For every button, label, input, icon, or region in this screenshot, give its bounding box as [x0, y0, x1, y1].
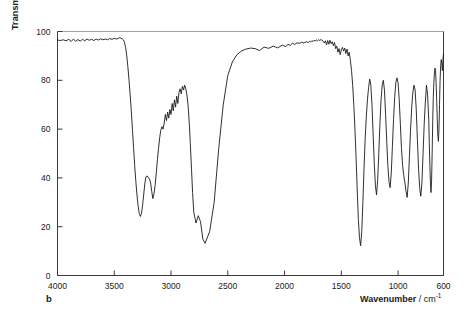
x-tick-label: 2000: [275, 281, 294, 291]
x-tick-label: 4000: [48, 281, 67, 291]
y-tick-label: 40: [41, 173, 51, 183]
y-tick-label: 80: [41, 75, 51, 85]
x-tick-label: 2500: [218, 281, 237, 291]
x-tick-label: 600: [436, 281, 450, 291]
spectrum-trace-0: [58, 38, 444, 246]
spectrum-plot: 0204060801004000350030002500200015001000…: [0, 0, 474, 317]
x-tick-label: 1500: [332, 281, 351, 291]
x-tick-label: 3000: [162, 281, 181, 291]
ir-spectrum-figure: Transmittance / % Wavenumber / cm-1 b 02…: [0, 0, 474, 317]
x-tick-label: 1000: [389, 281, 408, 291]
y-tick-label: 20: [41, 222, 51, 232]
y-tick-label: 60: [41, 124, 51, 134]
x-tick-label: 3500: [105, 281, 124, 291]
y-tick-label: 100: [36, 27, 50, 37]
y-tick-label: 0: [46, 271, 51, 281]
